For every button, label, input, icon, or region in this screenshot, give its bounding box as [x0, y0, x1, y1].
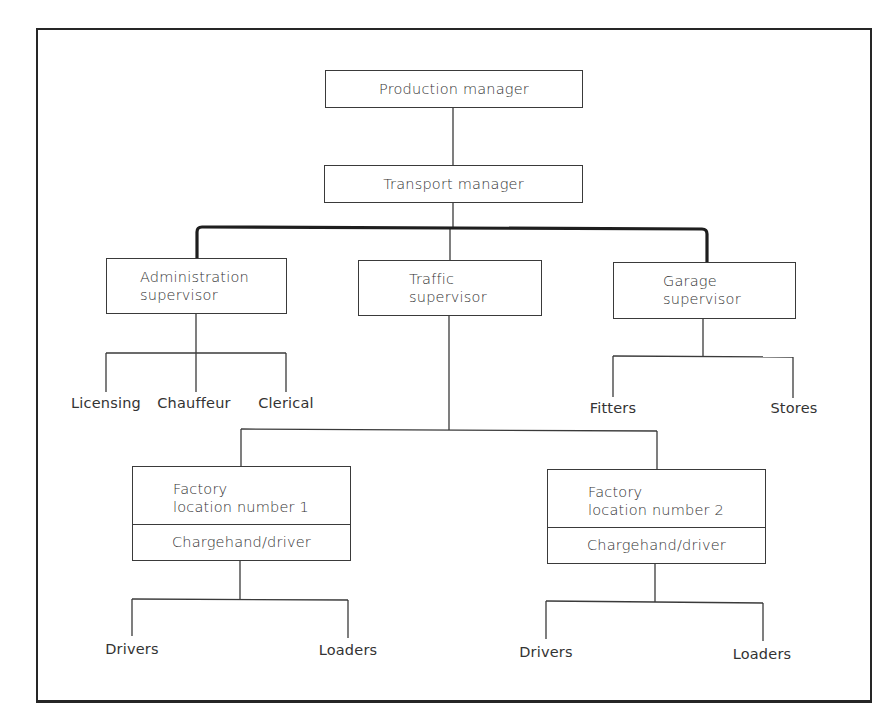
admin-supervisor-line2: supervisor	[140, 286, 249, 304]
factory-location-1-box: Factory location number 1 Chargehand/dri…	[132, 466, 351, 561]
leaf-factory2-loaders: Loaders	[733, 646, 792, 662]
factory1-chargehand: Chargehand/driver	[172, 534, 311, 550]
factory1-line1: Factory	[173, 480, 309, 498]
transport-manager-label: Transport manager	[383, 176, 524, 192]
factory2-line1: Factory	[588, 483, 724, 501]
leaf-fitters: Fitters	[590, 400, 637, 416]
leaf-chauffeur: Chauffeur	[157, 395, 230, 411]
administration-supervisor-box: Administration supervisor	[106, 258, 287, 314]
leaf-licensing: Licensing	[71, 395, 141, 411]
factory-location-2-box: Factory location number 2 Chargehand/dri…	[547, 469, 766, 564]
traffic-supervisor-box: Traffic supervisor	[358, 260, 542, 316]
factory2-line2: location number 2	[588, 501, 724, 519]
garage-supervisor-line1: Garage	[663, 272, 741, 290]
garage-supervisor-line2: supervisor	[663, 290, 741, 308]
production-manager-box: Production manager	[325, 70, 583, 108]
leaf-factory1-drivers: Drivers	[105, 641, 159, 657]
traffic-supervisor-line1: Traffic	[409, 270, 487, 288]
factory1-line2: location number 1	[173, 498, 309, 516]
leaf-factory1-loaders: Loaders	[319, 642, 378, 658]
leaf-factory2-drivers: Drivers	[519, 644, 573, 660]
admin-supervisor-line1: Administration	[140, 268, 249, 286]
leaf-clerical: Clerical	[258, 395, 314, 411]
production-manager-label: Production manager	[379, 81, 529, 97]
transport-manager-box: Transport manager	[324, 165, 583, 203]
diagram-frame	[36, 28, 872, 703]
garage-supervisor-box: Garage supervisor	[613, 262, 796, 319]
traffic-supervisor-line2: supervisor	[409, 288, 487, 306]
factory2-chargehand: Chargehand/driver	[587, 537, 726, 553]
leaf-stores: Stores	[770, 400, 817, 416]
